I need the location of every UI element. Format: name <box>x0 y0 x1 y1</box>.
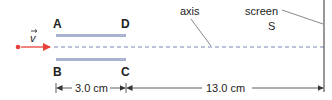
axis-label: axis <box>180 5 200 17</box>
plate-top <box>56 34 126 37</box>
screen-leader-line <box>282 10 323 24</box>
label-d: D <box>121 17 130 31</box>
plate-bottom <box>56 58 126 61</box>
label-a: A <box>53 17 62 31</box>
deflection-diagram: v A D B C axis screen S 3.0 cm 13.0 cm <box>0 0 332 100</box>
particle-dot <box>16 45 21 50</box>
velocity-label: v <box>30 32 37 44</box>
screen-point-label: S <box>268 20 275 32</box>
dim-screen-distance: 13.0 cm <box>206 82 245 94</box>
label-c: C <box>121 65 130 79</box>
dim-plate-length: 3.0 cm <box>75 82 108 94</box>
axis-leader-line <box>191 19 211 46</box>
label-b: B <box>53 65 62 79</box>
screen-label: screen <box>245 5 278 17</box>
